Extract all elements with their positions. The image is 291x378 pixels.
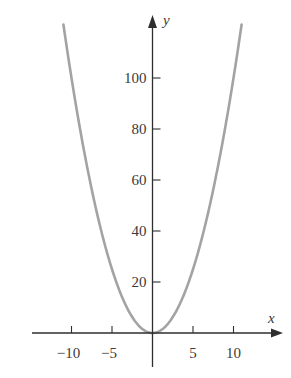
y-tick-label: 20 <box>132 274 147 290</box>
y-tick-label: 100 <box>124 70 147 86</box>
y-tick-label: 80 <box>132 121 147 137</box>
x-tick-label: −5 <box>101 345 117 361</box>
y-tick-label: 60 <box>132 172 147 188</box>
x-axis-arrow-icon <box>271 329 283 338</box>
x-tick-label: 5 <box>189 345 197 361</box>
y-tick-label: 40 <box>132 223 147 239</box>
x-axis-label: x <box>267 310 275 326</box>
parabola-chart: −10−5510 20406080100 x y <box>0 0 291 378</box>
x-tick-label: −10 <box>57 345 80 361</box>
x-tick-label: 10 <box>226 345 241 361</box>
y-axis-arrow-icon <box>148 15 157 28</box>
y-axis-label: y <box>161 12 170 28</box>
y-ticks: 20406080100 <box>124 70 161 290</box>
